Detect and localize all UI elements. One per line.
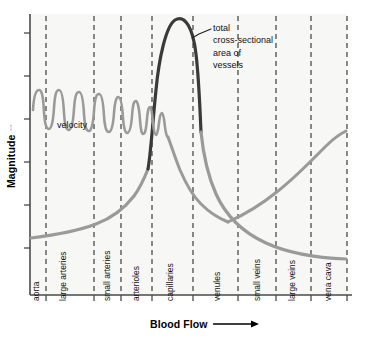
annotation-line-1: total	[213, 22, 273, 34]
velocity-series-label: velocity	[57, 120, 87, 130]
area-series-annotation: total cross-sectional area of vessels	[213, 22, 273, 72]
category-label-small-arteries: small arteries	[102, 251, 112, 302]
annotation-line-3: area of	[213, 47, 273, 59]
category-label-aorta: aorta	[31, 282, 41, 301]
right-arrow-icon	[212, 319, 260, 329]
up-arrow-icon	[6, 124, 16, 131]
x-axis-ticks	[46, 295, 347, 301]
y-axis-title: Magnitude	[5, 124, 17, 188]
x-axis-title-text: Blood Flow	[150, 318, 208, 330]
category-label-arterioles: arterioles	[131, 266, 141, 301]
category-label-small-veins: small veins	[252, 259, 262, 301]
category-label-capillaries: capillaries	[165, 263, 175, 301]
blood-flow-chart-figure: Blood Flow Magnitude aorta large arterie…	[0, 0, 365, 340]
y-axis-ticks	[24, 33, 30, 248]
x-axis-title: Blood Flow	[150, 318, 260, 330]
category-label-venules: venules	[212, 272, 222, 301]
category-label-vena-cava: vena cava	[323, 262, 333, 301]
y-axis-title-text: Magnitude	[5, 135, 17, 188]
category-label-large-veins: large veins	[287, 260, 297, 301]
category-label-large-arteries: large arteries	[58, 251, 68, 301]
annotation-line-2: cross-sectional	[213, 34, 273, 46]
chart-plot-area	[0, 0, 365, 340]
annotation-line-4: vessels	[213, 59, 273, 71]
